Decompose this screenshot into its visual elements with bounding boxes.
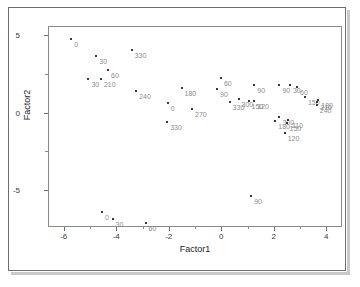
x-axis-tick-label: -4 (113, 232, 120, 241)
x-axis-minor-tick (90, 227, 91, 229)
data-point-marker (286, 122, 288, 124)
data-point-marker (250, 195, 252, 197)
x-axis-tick-label: 2 (272, 232, 276, 241)
data-point-marker (107, 69, 109, 71)
data-point-label: 60 (224, 80, 232, 88)
x-axis-tick-label: 4 (324, 232, 328, 241)
scatter-plot-figure: Factor2 Factor1 -6-4-202450-5 0303306030… (0, 0, 360, 287)
data-point-label: 90 (254, 198, 262, 206)
data-point-marker (317, 99, 319, 101)
data-point-label: 330 (135, 52, 147, 60)
data-point-marker (87, 78, 89, 80)
data-point-marker (112, 218, 114, 220)
x-axis-tick (169, 227, 170, 231)
data-point-label: 90 (282, 87, 290, 95)
data-point-marker (101, 211, 103, 213)
data-point-marker (216, 88, 218, 90)
x-axis-tick (221, 227, 222, 231)
data-point-label: 90 (220, 91, 228, 99)
data-point-label: 240 (139, 93, 151, 101)
data-point-marker (253, 84, 255, 86)
x-axis-tick (64, 227, 65, 231)
y-axis-tick-label: 5 (16, 31, 20, 40)
data-point-marker (220, 77, 222, 79)
data-point-marker (253, 100, 255, 102)
data-point-marker (131, 49, 133, 51)
data-point-label: 180 (185, 90, 197, 98)
x-axis-tick-label: 0 (219, 232, 223, 241)
data-point-marker (95, 55, 97, 57)
x-axis-tick (326, 227, 327, 231)
x-axis-minor-tick (248, 227, 249, 229)
x-axis-tick-label: -6 (60, 232, 67, 241)
data-point-label: 270 (195, 111, 207, 119)
data-point-label: 0 (171, 105, 175, 113)
data-point-label: 30 (99, 58, 107, 66)
x-axis-minor-tick (143, 227, 144, 229)
x-axis-minor-tick (195, 227, 196, 229)
data-point-label: 90 (257, 87, 265, 95)
data-point-label: 150 (290, 125, 302, 133)
data-point-label: 60 (149, 225, 157, 233)
data-point-marker (191, 108, 193, 110)
data-point-label: 30 (116, 221, 124, 229)
data-point-label: 330 (170, 124, 182, 132)
data-point-marker (304, 96, 306, 98)
data-point-label: 210 (104, 81, 116, 89)
data-point-marker (70, 38, 72, 40)
data-point-marker (181, 87, 183, 89)
data-point-label: 30 (91, 81, 99, 89)
data-point-marker (289, 84, 291, 86)
y-axis-label: Factor2 (22, 75, 32, 135)
data-point-marker (316, 101, 318, 103)
data-point-marker (274, 120, 276, 122)
figure-frame: Factor2 Factor1 -6-4-202450-5 0303306030… (8, 7, 346, 271)
frame-shadow (11, 272, 350, 275)
data-point-marker (100, 78, 102, 80)
data-point-marker (248, 100, 250, 102)
data-point-marker (166, 121, 168, 123)
data-point-marker (135, 90, 137, 92)
data-point-marker (278, 84, 280, 86)
data-point-marker (296, 86, 298, 88)
x-axis-tick (274, 227, 275, 231)
data-point-marker (167, 102, 169, 104)
data-point-label: 120 (288, 135, 300, 143)
frame-shadow (347, 10, 350, 274)
data-point-marker (278, 116, 280, 118)
data-point-label: 60 (111, 72, 119, 80)
data-point-marker (229, 101, 231, 103)
y-axis-tick-label: -5 (13, 185, 20, 194)
data-point-label: 0 (105, 214, 109, 222)
data-point-label: 180 (321, 102, 333, 110)
y-axis-tick-label: 0 (16, 108, 20, 117)
x-axis-minor-tick (300, 227, 301, 229)
x-axis-tick-label: -2 (165, 232, 172, 241)
plot-area: 0303306030210240033018027060903303001509… (48, 26, 342, 227)
x-axis-label: Factor1 (48, 244, 342, 254)
data-point-marker (145, 222, 147, 224)
data-point-marker (238, 98, 240, 100)
data-point-marker (287, 119, 289, 121)
data-point-marker (316, 104, 318, 106)
data-point-label: 0 (74, 41, 78, 49)
data-point-label: 120 (257, 103, 269, 111)
data-point-marker (284, 132, 286, 134)
